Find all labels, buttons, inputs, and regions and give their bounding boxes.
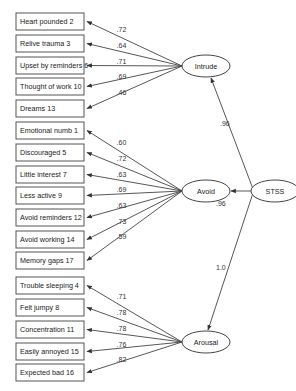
indicator-label: Felt jumpy 8 — [20, 303, 59, 312]
indicator-label: Less active 9 — [20, 191, 62, 200]
latent-arousal-label: Arousal — [194, 338, 219, 347]
indicator-label: Avoid reminders 12 — [20, 213, 82, 222]
loading-coefficient: .64 — [117, 42, 127, 49]
latent-intrude-label: Intrude — [195, 62, 217, 71]
sem-path-diagram: Heart pounded 2Relive trauma 3Upset by r… — [0, 0, 296, 391]
latent-factor-ellipses: IntrudeAvoidArousalSTSS — [182, 55, 296, 353]
loading-coefficient: .69 — [117, 186, 127, 193]
loading-arrow — [87, 131, 182, 192]
indicator-label: Concentration 11 — [20, 325, 74, 334]
loading-arrow — [87, 66, 182, 67]
loading-arrow — [87, 191, 182, 261]
loading-coefficient: .69 — [117, 73, 127, 80]
loading-arrow — [87, 44, 182, 67]
path-stss-intrude — [211, 78, 253, 189]
indicator-label: Little interest 7 — [20, 170, 67, 179]
loading-arrow — [87, 308, 182, 343]
loading-coefficient: .46 — [117, 89, 127, 96]
loading-coefficient: .78 — [117, 309, 127, 316]
indicator-label: Discouraged 5 — [20, 148, 66, 157]
structural-coefficient: .96 — [220, 120, 230, 127]
indicator-label: Upset by reminders 6 — [20, 61, 88, 70]
structural-coefficient: 1.0 — [216, 264, 226, 271]
indicator-label: Relive trauma 3 — [20, 39, 70, 48]
indicator-label: Memory gaps 17 — [20, 256, 74, 265]
indicator-label: Expected bad 16 — [20, 368, 74, 377]
indicator-boxes: Heart pounded 2Relive trauma 3Upset by r… — [16, 13, 88, 381]
loading-coefficient: .60 — [117, 139, 127, 146]
loading-coefficient: .72 — [117, 155, 127, 162]
indicator-label: Avoid working 14 — [20, 235, 75, 244]
loading-coefficient: .72 — [117, 26, 127, 33]
loading-arrow — [87, 22, 182, 67]
loading-coefficient: .82 — [117, 356, 127, 363]
loading-arrow — [87, 153, 182, 192]
loading-coefficient: .63 — [117, 171, 127, 178]
loading-arrow — [87, 66, 182, 87]
loading-arrow — [87, 66, 182, 109]
latent-avoid-label: Avoid — [197, 187, 215, 196]
indicator-label: Heart pounded 2 — [20, 17, 74, 26]
loading-coefficient: .76 — [117, 341, 127, 348]
loading-coefficient: .59 — [117, 233, 127, 240]
indicator-label: Emotional numb 1 — [20, 126, 78, 135]
loading-coefficient: .63 — [117, 202, 127, 209]
indicator-label: Easily annoyed 15 — [20, 347, 79, 356]
loading-coefficient: .71 — [117, 58, 127, 65]
loading-arrow — [87, 330, 182, 343]
loading-arrow — [87, 175, 182, 192]
latent-stss-label: STSS — [266, 187, 285, 196]
loading-coefficient: .71 — [117, 293, 127, 300]
structural-coefficient: .96 — [216, 200, 226, 207]
path-stss-arousal — [208, 193, 253, 330]
loading-arrow — [87, 191, 182, 240]
loading-coefficient: .78 — [117, 325, 127, 332]
path-arrows — [87, 22, 253, 373]
indicator-label: Thought of work 10 — [20, 82, 82, 91]
loading-coefficient: .73 — [117, 218, 127, 225]
indicator-label: Trouble sleeping 4 — [20, 281, 79, 290]
indicator-label: Dreams 13 — [20, 104, 55, 113]
loading-arrow — [87, 286, 182, 343]
